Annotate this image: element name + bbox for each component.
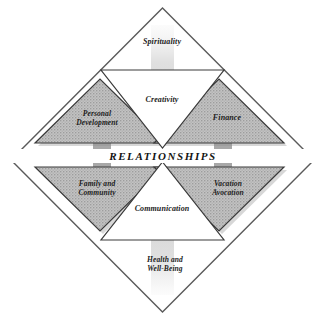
label-relationships: RELATIONSHIPS [109,150,217,162]
diagram-canvas [0,0,325,324]
relationships-diagram: Spirituality Creativity Personal Develop… [0,0,325,324]
